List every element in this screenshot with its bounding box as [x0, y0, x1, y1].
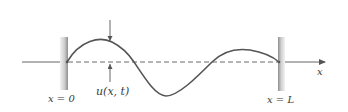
- right-wall: [278, 37, 285, 91]
- left-boundary-label: x = 0: [48, 93, 75, 104]
- vibrating-string-diagram: u(x, t) x = 0 x = L x: [0, 0, 348, 112]
- left-wall: [60, 37, 68, 90]
- right-fixed-point: [278, 61, 281, 64]
- left-fixed-point: [66, 61, 69, 64]
- displacement-label: u(x, t): [96, 85, 129, 98]
- right-boundary-label: x = L: [267, 94, 294, 105]
- x-axis-label: x: [317, 66, 323, 77]
